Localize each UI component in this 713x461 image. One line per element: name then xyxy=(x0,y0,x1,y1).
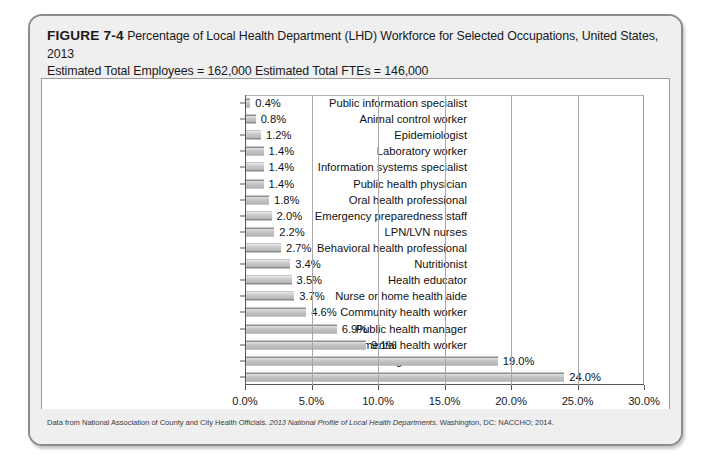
figure-caption: FIGURE 7-4 Percentage of Local Health De… xyxy=(47,27,669,81)
gridline xyxy=(445,95,446,385)
x-tick-label: 20.0% xyxy=(495,395,527,407)
x-tick xyxy=(578,385,579,390)
x-tick-label: 10.0% xyxy=(362,395,394,407)
chart-panel: Public information specialist0.4%Animal … xyxy=(41,78,670,411)
figure-caption-line2: Estimated Total Employees = 162,000 Esti… xyxy=(47,64,428,78)
figure-source-band: Data from National Association of County… xyxy=(30,409,681,444)
x-tick xyxy=(312,385,313,390)
source-title: 2013 National Profile of Local Health De… xyxy=(269,418,435,427)
source-prefix: Data from National Association of County… xyxy=(47,418,269,427)
gridline xyxy=(378,95,379,385)
figure-number: FIGURE 7-4 xyxy=(47,28,124,43)
plot-area: 0.0%5.0%10.0%15.0%20.0%25.0%30.0% xyxy=(245,95,644,385)
x-tick-label: 25.0% xyxy=(562,395,594,407)
figure-caption-line1: Percentage of Local Health Department (L… xyxy=(47,29,658,61)
x-tick-label: 30.0% xyxy=(628,395,660,407)
figure-source: Data from National Association of County… xyxy=(47,418,554,427)
x-tick xyxy=(245,385,246,390)
x-tick-label: 15.0% xyxy=(429,395,461,407)
x-tick xyxy=(511,385,512,390)
gridline xyxy=(312,95,313,385)
x-tick xyxy=(445,385,446,390)
x-tick-label: 0.0% xyxy=(232,395,258,407)
gridline xyxy=(578,95,579,385)
x-tick-label: 5.0% xyxy=(299,395,325,407)
gridline xyxy=(511,95,512,385)
source-suffix: . Washington, DC: NACCHO; 2014. xyxy=(436,418,554,427)
x-tick xyxy=(378,385,379,390)
x-tick xyxy=(644,385,645,390)
figure-caption-band: FIGURE 7-4 Percentage of Local Health De… xyxy=(30,16,681,78)
y-axis-line xyxy=(245,95,246,385)
figure-frame: FIGURE 7-4 Percentage of Local Health De… xyxy=(28,14,683,446)
plot-border-right xyxy=(643,95,644,385)
